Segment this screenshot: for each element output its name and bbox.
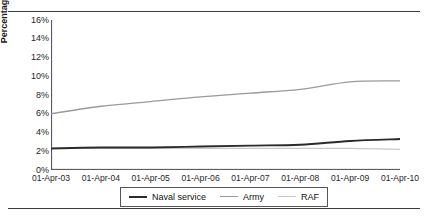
table-rule-bottom	[8, 208, 420, 209]
x-tick-label: 01-Apr-09	[331, 172, 369, 184]
y-tick-label: 8%	[36, 90, 49, 101]
legend-label: Army	[243, 192, 264, 202]
series-line-naval-service	[51, 139, 400, 148]
legend-label: RAF	[301, 192, 319, 202]
series-line-raf	[51, 148, 400, 149]
y-tick-label: 10%	[31, 71, 49, 82]
x-tick-label: 01-Apr-03	[32, 172, 70, 184]
figure-container: Percentage 16%14%12%10%8%6%4%2%0% 01-Apr…	[0, 0, 428, 219]
y-tick-label: 16%	[31, 15, 49, 26]
x-axis-tick-labels: 01-Apr-0301-Apr-0401-Apr-0501-Apr-0601-A…	[0, 172, 428, 186]
y-tick-label: 6%	[36, 108, 49, 119]
y-tick-label: 12%	[31, 52, 49, 63]
legend-swatch-icon	[278, 196, 296, 197]
x-tick-label: 01-Apr-05	[132, 172, 170, 184]
x-tick-label: 01-Apr-08	[281, 172, 319, 184]
line-chart-svg	[51, 20, 400, 170]
legend-item[interactable]: Army	[220, 192, 264, 202]
y-axis-title: Percentage	[0, 0, 9, 62]
legend-label: Naval service	[152, 192, 206, 202]
table-rule-top	[8, 11, 420, 12]
y-tick-label: 14%	[31, 33, 49, 44]
legend-swatch-icon	[220, 196, 238, 197]
x-tick-label: 01-Apr-06	[181, 172, 219, 184]
y-tick-label: 4%	[36, 127, 49, 138]
x-tick-label: 01-Apr-04	[82, 172, 120, 184]
legend-swatch-icon	[129, 196, 147, 198]
x-tick-label: 01-Apr-07	[231, 172, 269, 184]
y-axis-tick-labels: 16%14%12%10%8%6%4%2%0%	[17, 14, 49, 176]
legend-item[interactable]: Naval service	[129, 192, 206, 202]
plot-area	[51, 20, 400, 170]
clipped-header-text	[0, 0, 428, 4]
x-tick-label: 01-Apr-10	[381, 172, 419, 184]
series-line-army	[51, 81, 400, 114]
chart-legend: Naval serviceArmyRAF	[120, 187, 328, 207]
y-tick-label: 2%	[36, 146, 49, 157]
legend-item[interactable]: RAF	[278, 192, 319, 202]
